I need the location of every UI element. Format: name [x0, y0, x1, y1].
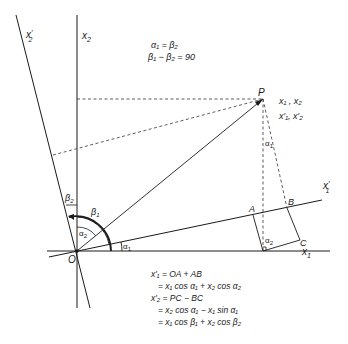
point-p-label: P [258, 87, 265, 98]
alpha1-label-p: α1 [265, 139, 274, 149]
x2-axis-label: x2 [81, 30, 91, 43]
p-coords-original: x₁ , x₂ [278, 96, 302, 106]
alpha1-label-origin: α1 [123, 242, 132, 252]
projection-p-to-x2-prime [53, 99, 263, 155]
x1-prime-axis-label: x′1 [322, 179, 330, 194]
x2-prime-axis-label: x′2 [25, 28, 33, 43]
equation-line-4: = x₂ cos α₁ − x₁ sin α₁ [158, 305, 238, 315]
x2-prime-axis [16, 15, 90, 308]
point-b-label: B [288, 197, 294, 207]
x1-prime-axis [49, 200, 322, 257]
beta2-label: β2 [64, 193, 74, 204]
point-c-label: C [300, 238, 307, 248]
alpha1-arc [121, 242, 122, 251]
equation-line-1: x′₁ = OA + AB [150, 269, 202, 279]
relation-alpha1-beta2: α₁ = β₂ [151, 40, 178, 50]
equation-line-5: = x₁ cos β₁ + x₂ cos β₂ [158, 317, 242, 327]
segment-a-foot [253, 215, 263, 251]
relation-beta-difference: β₁ − β₂ = 90 [147, 52, 195, 62]
equation-line-3: x′₂ = PC − BC [150, 293, 204, 303]
segment-b-c [287, 208, 300, 240]
point-a-label: A [248, 204, 255, 214]
beta1-arrow-icon [68, 214, 74, 220]
equation-line-2: = x₁ cos α₁ + x₂ cos α₂ [158, 281, 242, 291]
p-coords-rotated: x′₁, x′₂ [278, 111, 303, 121]
axis-rotation-diagram: x2 x′2 x1 x′1 O P A B C x₁ , x₂ x′₁, x′₂… [0, 0, 348, 344]
origin-label: O [68, 254, 76, 265]
beta1-label: β1 [90, 207, 100, 218]
alpha2-label-foot: α2 [265, 236, 274, 246]
vector-op [77, 99, 263, 251]
alpha2-label-origin: α2 [79, 229, 88, 239]
origin-point [75, 249, 79, 253]
